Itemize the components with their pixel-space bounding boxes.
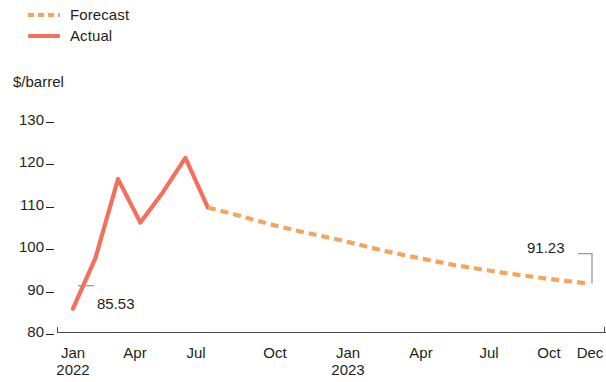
- x-tick-apr-2022-month: Apr: [123, 344, 146, 361]
- x-tick-dec-2023-month: Dec: [577, 344, 604, 361]
- x-tick-jan-2023-year: 2023: [331, 361, 364, 379]
- x-tick-jan-2022-month: Jan: [61, 344, 85, 361]
- x-tick-oct-2023: Oct: [537, 344, 560, 361]
- oil-price-forecast-chart: Forecast Actual $/barrel 130 120 110 100…: [0, 0, 606, 382]
- x-axis-left-cap: [57, 327, 58, 333]
- x-axis-right-cap: [604, 327, 605, 333]
- x-tick-dec-2023: Dec: [577, 344, 604, 361]
- callout-leader-end: [578, 254, 592, 284]
- plot-area: [0, 0, 606, 382]
- x-tick-jan-2022-year: 2022: [56, 361, 89, 379]
- x-axis-line: [57, 332, 606, 333]
- x-tick-jan-2022: Jan2022: [56, 344, 89, 379]
- x-tick-apr-2023: Apr: [409, 344, 432, 361]
- x-tick-jul-2023: Jul: [479, 344, 498, 361]
- x-tick-oct-2022-month: Oct: [263, 344, 286, 361]
- x-tick-apr-2022: Apr: [123, 344, 146, 361]
- callout-end-value: 91.23: [527, 240, 565, 256]
- x-tick-oct-2022: Oct: [263, 344, 286, 361]
- x-tick-jan-2023: Jan2023: [331, 344, 364, 379]
- callout-start-value: 85.53: [97, 296, 135, 312]
- x-tick-jul-2023-month: Jul: [479, 344, 498, 361]
- x-tick-jan-2023-month: Jan: [336, 344, 360, 361]
- x-tick-apr-2023-month: Apr: [409, 344, 432, 361]
- x-tick-jul-2022-month: Jul: [186, 344, 205, 361]
- x-tick-jul-2022: Jul: [186, 344, 205, 361]
- x-tick-oct-2023-month: Oct: [537, 344, 560, 361]
